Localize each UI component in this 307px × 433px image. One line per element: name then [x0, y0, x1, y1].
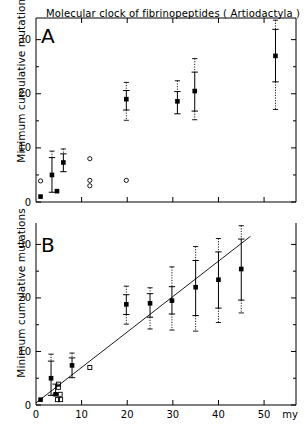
- panel-b: B Minimum cumulative mutations 010203001…: [0, 215, 307, 433]
- svg-text:50: 50: [258, 409, 271, 420]
- svg-text:30: 30: [18, 239, 31, 250]
- svg-text:20: 20: [18, 292, 31, 303]
- panel-b-plot: 010203001020304050my: [0, 215, 307, 433]
- svg-text:30: 30: [18, 34, 31, 45]
- panel-a: Molecular clock of fibrinopeptides ( Art…: [0, 0, 307, 218]
- svg-text:0: 0: [25, 197, 31, 208]
- svg-text:10: 10: [18, 142, 31, 153]
- svg-text:20: 20: [121, 409, 134, 420]
- svg-text:10: 10: [18, 346, 31, 357]
- panel-a-plot: 0102030: [0, 0, 307, 218]
- svg-text:20: 20: [18, 88, 31, 99]
- svg-text:0: 0: [33, 409, 39, 420]
- svg-text:my: my: [282, 409, 298, 420]
- svg-text:30: 30: [166, 409, 179, 420]
- figure-molecular-clock: Molecular clock of fibrinopeptides ( Art…: [0, 0, 307, 433]
- svg-text:40: 40: [212, 409, 225, 420]
- svg-text:0: 0: [25, 400, 31, 411]
- svg-text:10: 10: [75, 409, 88, 420]
